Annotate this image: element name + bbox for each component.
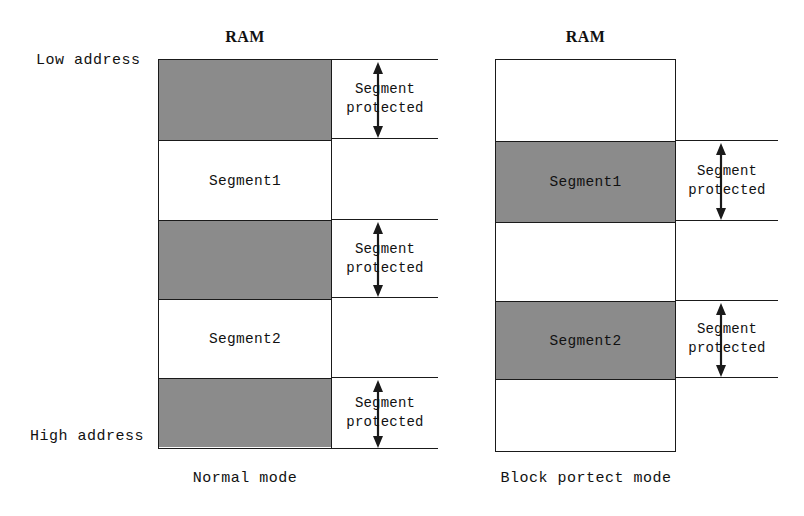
right-ram-title: RAM [495,28,676,46]
right-band-segment1: Segment1 [496,141,675,222]
annotation-line-2: protected [688,181,765,200]
right-annotation-2-text: Segment protected [688,320,765,358]
right-annotation-2-text-wrap: Segment protected [676,301,778,377]
annotation-line-1: Segment [688,162,765,181]
right-ram-box: Segment1 Segment2 [495,59,676,452]
right-band-free-1 [496,60,675,141]
right-band-label-4: Segment2 [496,333,675,349]
right-band-free-2 [496,222,675,301]
right-mode-label: Block portect mode [486,470,686,487]
right-annotation-1-text-wrap: Segment protected [676,141,778,220]
right-band-free-3 [496,379,675,450]
right-band-label-2: Segment1 [496,174,675,190]
diagram-canvas: RAM Low address High address Segment1 Se… [0,0,804,516]
right-annotation-2: Segment protected [676,300,778,378]
right-annotation-1-text: Segment protected [688,162,765,200]
right-panel: RAM Segment1 Segment2 [0,0,804,516]
annotation-line-2: protected [688,339,765,358]
annotation-line-1: Segment [688,320,765,339]
right-annotation-1: Segment protected [676,140,778,221]
right-band-segment2: Segment2 [496,301,675,379]
